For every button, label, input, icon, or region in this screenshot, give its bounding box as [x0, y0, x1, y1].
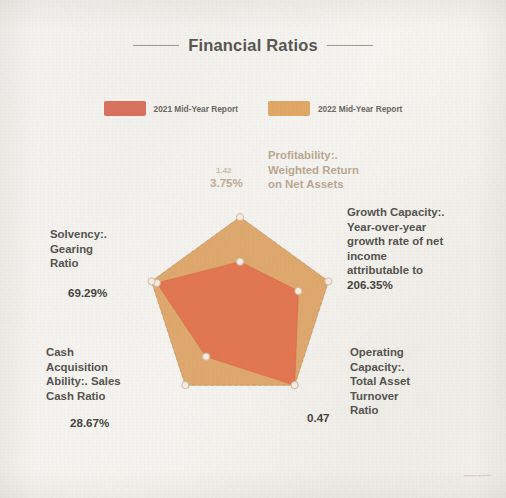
- chart-title-row: Financial Ratios: [0, 36, 506, 55]
- axis-label-operating-capacity: Operating Capacity:. Total Asset Turnove…: [350, 345, 410, 418]
- legend-item-2021[interactable]: 2021 Mid-Year Report: [104, 101, 238, 116]
- title-rule-left: [133, 45, 179, 46]
- chart-legend: 2021 Mid-Year Report 2022 Mid-Year Repor…: [0, 101, 506, 116]
- title-rule-right: [327, 45, 373, 46]
- legend-item-2022[interactable]: 2022 Mid-Year Report: [268, 101, 402, 116]
- scanned-report-page: Financial Ratios 2021 Mid-Year Report 20…: [0, 0, 506, 498]
- axis-value-cash-acquisition: 28.67%: [70, 416, 109, 429]
- axis-label-growth-capacity: Growth Capacity:. Year-over-year growth …: [347, 205, 444, 278]
- axis-label-cash-acquisition: Cash Acquisition Ability:. Sales Cash Ra…: [46, 345, 121, 403]
- legend-label-2022: 2022 Mid-Year Report: [318, 104, 402, 114]
- legend-swatch-2022: [268, 101, 310, 116]
- axis-value-solvency: 69.29%: [68, 286, 107, 299]
- radar-vertex-markers: [148, 213, 332, 388]
- series-area-2022: [152, 217, 329, 385]
- series-area-2021: [157, 262, 299, 386]
- axis-label-profitability: Profitability:. Weighted Return on Net A…: [268, 148, 359, 192]
- axis-value-growth-capacity: 206.35%: [347, 278, 393, 291]
- page-title: Financial Ratios: [188, 36, 318, 55]
- axis-label-solvency: Solvency:. Gearing Ratio: [50, 227, 107, 271]
- axis-value-operating-capacity: 0.47: [307, 411, 330, 424]
- axis-value-profitability-secondary: 1.42: [216, 166, 232, 175]
- legend-swatch-2021: [104, 101, 146, 116]
- legend-label-2021: 2021 Mid-Year Report: [154, 104, 238, 114]
- radar-grid: [152, 217, 329, 385]
- page-watermark: ——: [464, 467, 492, 482]
- axis-value-profitability: 3.75%: [210, 176, 243, 189]
